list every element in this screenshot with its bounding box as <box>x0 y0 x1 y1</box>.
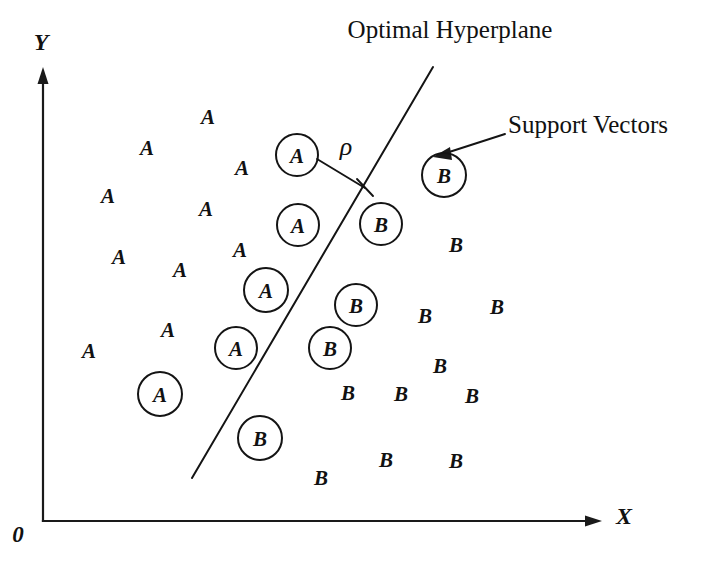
support-vector-a: A <box>277 204 319 246</box>
support-vector-b: B <box>238 416 282 460</box>
point-b: B <box>373 213 388 237</box>
origin-label: 0 <box>12 522 24 547</box>
support-vector-b: B <box>360 203 402 245</box>
point-a: A <box>138 136 154 160</box>
point-a: A <box>289 214 305 238</box>
support-vector-a: A <box>276 134 318 176</box>
point-a: A <box>257 279 273 303</box>
point-b: B <box>489 295 504 319</box>
support-vector-b: B <box>309 327 351 369</box>
point-b: B <box>348 294 363 318</box>
y-axis-label: Y <box>34 29 51 55</box>
point-a: A <box>99 184 115 208</box>
point-b: B <box>313 466 328 490</box>
class-a-support-vectors-group: A A A A A <box>138 134 319 416</box>
point-b: B <box>378 448 393 472</box>
point-b: B <box>252 427 267 451</box>
point-b: B <box>436 164 451 188</box>
point-b: B <box>417 304 432 328</box>
point-a: A <box>197 197 213 221</box>
point-a: A <box>151 383 167 407</box>
y-axis-arrowhead <box>38 67 49 84</box>
svm-diagram-canvas: Y X 0 ρ A A A A A A A A A A <box>0 0 722 561</box>
support-vector-a: A <box>244 268 288 312</box>
class-a-points-group: A A A A A A A A A A <box>80 105 249 363</box>
rho-symbol-label: ρ <box>339 132 352 161</box>
point-a: A <box>231 238 247 262</box>
svm-diagram-figure: Y X 0 ρ A A A A A A A A A A <box>0 0 722 561</box>
point-a: A <box>80 339 96 363</box>
point-b: B <box>464 384 479 408</box>
support-vector-b: B <box>335 284 377 326</box>
x-axis-label: X <box>615 503 633 529</box>
point-a: A <box>171 258 187 282</box>
point-a: A <box>159 318 175 342</box>
support-vectors-pointer-group <box>433 134 505 160</box>
point-a: A <box>199 105 215 129</box>
point-a: A <box>110 245 126 269</box>
point-b: B <box>448 449 463 473</box>
support-vector-a: A <box>215 327 257 369</box>
point-b: B <box>432 354 447 378</box>
margin-indicator-group <box>317 159 373 196</box>
point-b: B <box>322 337 337 361</box>
x-axis-arrowhead <box>585 516 602 527</box>
support-vector-a: A <box>138 372 182 416</box>
point-a: A <box>233 156 249 180</box>
point-a: A <box>227 337 243 361</box>
support-vectors-pointer-line <box>443 134 505 154</box>
support-vector-b: B <box>422 153 466 197</box>
point-b: B <box>393 382 408 406</box>
support-vectors-label: Support Vectors <box>508 111 668 138</box>
optimal-hyperplane-title: Optimal Hyperplane <box>348 16 553 43</box>
point-a: A <box>288 144 304 168</box>
point-b: B <box>448 233 463 257</box>
point-b: B <box>340 381 355 405</box>
class-b-points-group: B B B B B B B B B B <box>313 233 504 490</box>
optimal-hyperplane-line <box>192 67 433 478</box>
margin-rho-line <box>317 159 365 188</box>
